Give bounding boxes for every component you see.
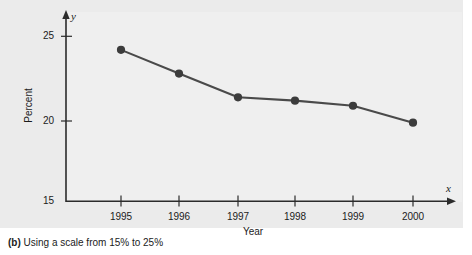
y-axis-letter: y xyxy=(71,10,76,22)
y-tick-label-25: 25 xyxy=(28,30,54,41)
figure-panel: 25 20 15 y x 1995 1996 1997 1998 1999 20… xyxy=(0,0,472,255)
figure-caption: (b) Using a scale from 15% to 25% xyxy=(8,237,163,248)
data-marker-group xyxy=(117,46,417,127)
data-point-1995 xyxy=(117,46,125,54)
caption-label: (b) xyxy=(8,237,21,248)
y-axis-arrowhead xyxy=(62,10,69,19)
y-axis-title: Percent xyxy=(23,86,34,126)
caption-text: Using a scale from 15% to 25% xyxy=(21,237,163,248)
data-line xyxy=(121,50,413,123)
x-tick-label-2000: 2000 xyxy=(393,211,433,222)
x-tick-label-1996: 1996 xyxy=(159,211,199,222)
data-point-1998 xyxy=(291,97,299,105)
x-tick-label-1997: 1997 xyxy=(218,211,258,222)
data-point-1999 xyxy=(349,102,357,110)
y-tick-label-15: 15 xyxy=(28,195,54,206)
x-tick-label-1995: 1995 xyxy=(101,211,141,222)
x-axis-title: Year xyxy=(213,226,293,237)
data-point-1996 xyxy=(175,69,183,77)
data-point-2000 xyxy=(409,119,417,127)
x-tick-label-1998: 1998 xyxy=(275,211,315,222)
x-axis-letter: x xyxy=(446,182,451,194)
x-axis-arrowhead xyxy=(447,197,456,205)
x-tick-label-1999: 1999 xyxy=(333,211,373,222)
data-point-1997 xyxy=(234,93,242,101)
